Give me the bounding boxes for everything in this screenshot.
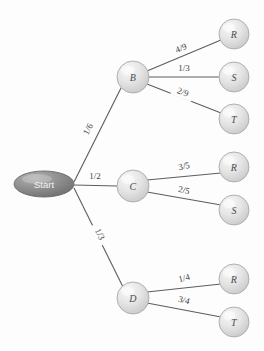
tree-edge-c-r	[147, 173, 221, 180]
tree-node-b_t: T	[219, 104, 249, 134]
edge-label-group-b-r: 4/9	[168, 38, 193, 58]
nodes-layer: StartBCDRSTRSRT	[14, 19, 249, 337]
node-label-b: B	[130, 72, 136, 83]
tree-node-start: Start	[14, 171, 74, 197]
node-label-c: C	[130, 181, 137, 192]
tree-node-c_r: R	[219, 152, 249, 182]
edge-probability-start-c: 1/2	[89, 171, 101, 181]
probability-tree-diagram: StartBCDRSTRSRT 1/61/21/34/91/32/93/52/5…	[0, 0, 264, 351]
edge-label-group-start-c: 1/2	[84, 170, 106, 183]
node-label-start: Start	[34, 179, 54, 190]
node-label-d: D	[128, 293, 137, 304]
edge-label-group-c-s: 2/5	[172, 181, 196, 198]
node-label-b_s: S	[231, 72, 236, 83]
edge-probability-b-s: 1/3	[178, 63, 190, 73]
node-label-d_r: R	[230, 274, 237, 285]
edge-label-group-d-t: 3/4	[172, 291, 196, 309]
tree-node-c: C	[117, 170, 149, 202]
edge-label-group-b-t: 2/9	[170, 82, 195, 102]
tree-node-b_s: S	[219, 62, 249, 92]
tree-node-b_r: R	[219, 19, 249, 49]
tree-edge-d-r	[147, 284, 221, 292]
node-label-c_s: S	[231, 205, 236, 216]
tree-edge-start-c	[74, 185, 117, 186]
tree-node-d_t: T	[219, 307, 249, 337]
tree-node-b: B	[117, 61, 149, 93]
node-label-c_r: R	[230, 162, 237, 173]
tree-node-c_s: S	[219, 195, 249, 225]
tree-node-d: D	[117, 282, 149, 314]
tree-canvas: StartBCDRSTRSRT 1/61/21/34/91/32/93/52/5…	[0, 0, 264, 351]
node-label-b_r: R	[230, 29, 237, 40]
edge-label-group-c-r: 3/5	[172, 157, 196, 174]
edge-label-group-d-r: 1/4	[172, 269, 196, 287]
tree-node-d_r: R	[219, 264, 249, 294]
edge-label-group-b-s: 1/3	[173, 62, 195, 75]
